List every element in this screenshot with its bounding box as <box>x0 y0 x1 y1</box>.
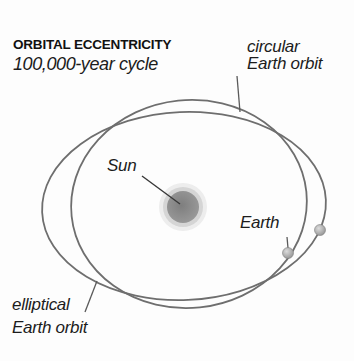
earth-dot-on-elliptical-orbit <box>315 225 326 236</box>
sun-icon <box>159 183 207 231</box>
label-elliptical-orbit-line1: elliptical <box>12 294 87 317</box>
label-elliptical-orbit-line2: Earth orbit <box>12 317 87 340</box>
orbital-eccentricity-figure: ORBITAL ECCENTRICITY 100,000-year cycle … <box>0 0 354 361</box>
label-circular-orbit-line2: Earth orbit <box>247 56 322 73</box>
circular-orbit-pointer-line <box>237 76 240 112</box>
earth-dot-on-circular-orbit <box>283 248 294 259</box>
page-subtitle: 100,000-year cycle <box>13 54 171 75</box>
title-block: ORBITAL ECCENTRICITY 100,000-year cycle <box>13 37 171 75</box>
label-sun: Sun <box>107 158 136 175</box>
page-title: ORBITAL ECCENTRICITY <box>13 37 171 52</box>
earth-pointer-line <box>287 237 288 248</box>
label-circular-orbit: circular Earth orbit <box>247 39 322 72</box>
label-elliptical-orbit: elliptical Earth orbit <box>12 294 87 339</box>
label-earth: Earth <box>240 215 279 232</box>
